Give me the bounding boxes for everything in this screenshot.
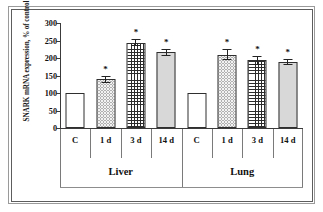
error-bar-cap-top — [101, 76, 110, 77]
significance-marker: * — [164, 38, 169, 47]
error-bar-cap-bottom — [101, 82, 110, 83]
error-bar — [253, 56, 262, 64]
bar-slot: * — [242, 23, 272, 128]
y-axis-tick-mark — [56, 41, 60, 42]
bars-layer: ****** — [60, 23, 303, 128]
y-axis-tick-mark — [56, 93, 60, 94]
category-label: 14 d — [273, 135, 303, 145]
y-axis-tick-label: 250 — [33, 36, 57, 45]
bar-slot — [182, 23, 212, 128]
y-axis-tick-mark — [56, 58, 60, 59]
y-axis-tick-labels: 300250200150100500 — [33, 9, 57, 202]
figure-frame: SNARK mRNA expression, % of control 3002… — [0, 0, 323, 212]
y-axis-tick-label: 100 — [33, 89, 57, 98]
bar-slot — [60, 23, 90, 128]
y-axis-tick-mark — [56, 111, 60, 112]
chart-plot-area: SNARK mRNA expression, % of control 3002… — [11, 9, 313, 202]
error-bar — [162, 49, 171, 56]
bar-slot: * — [273, 23, 303, 128]
bar-slot: * — [212, 23, 242, 128]
bar-slot: * — [90, 23, 120, 128]
bar-lung-1d[interactable] — [218, 55, 237, 129]
category-label: C — [60, 135, 90, 145]
y-axis-tick-label: 50 — [33, 106, 57, 115]
error-bar-cap-bottom — [223, 59, 232, 60]
bar-liver-14d[interactable] — [157, 52, 176, 128]
bar-slot: * — [151, 23, 181, 128]
group-label-lung: Lung — [182, 166, 304, 177]
y-axis-tick-label: 200 — [33, 54, 57, 63]
error-bar — [223, 49, 232, 60]
category-label: 14 d — [151, 135, 181, 145]
y-axis-tick-mark — [56, 76, 60, 77]
error-bar-cap-bottom — [131, 45, 140, 46]
y-axis-tick-label: 300 — [33, 19, 57, 28]
error-bar-cap-bottom — [283, 64, 292, 65]
y-axis-tick-label: 150 — [33, 71, 57, 80]
group-axis: LiverLung — [60, 158, 303, 188]
y-axis-tick-mark — [56, 128, 60, 129]
bar-lung-c[interactable] — [187, 93, 206, 128]
error-bar — [101, 76, 110, 82]
error-bar-cap-top — [283, 59, 292, 60]
bar-slot: * — [121, 23, 151, 128]
error-bar — [283, 59, 292, 65]
y-axis-tick-label: 0 — [33, 124, 57, 133]
bar-lung-14d[interactable] — [278, 62, 297, 128]
bar-liver-1d[interactable] — [96, 79, 115, 128]
y-axis-tick-mark — [56, 23, 60, 24]
category-label: C — [182, 135, 212, 145]
category-label: 1 d — [212, 135, 242, 145]
error-bar-cap-top — [162, 49, 171, 50]
error-bar-cap-bottom — [162, 55, 171, 56]
category-label: 1 d — [90, 135, 120, 145]
y-axis-label: SNARK mRNA expression, % of control — [23, 0, 31, 125]
significance-marker: * — [134, 28, 139, 37]
axis-bottom-rule — [60, 187, 303, 188]
bar-lung-3d[interactable] — [248, 60, 267, 128]
group-separator — [302, 158, 303, 188]
error-bar-cap-top — [223, 49, 232, 50]
category-label: 3 d — [242, 135, 272, 145]
error-bar — [131, 39, 140, 46]
significance-marker: * — [225, 38, 230, 47]
error-bar-cap-top — [131, 39, 140, 40]
category-label: 3 d — [121, 135, 151, 145]
error-bar-cap-bottom — [253, 64, 262, 65]
significance-marker: * — [103, 65, 108, 74]
significance-marker: * — [286, 48, 291, 57]
bar-liver-3d[interactable] — [126, 43, 145, 128]
group-label-liver: Liver — [60, 166, 182, 177]
significance-marker: * — [255, 45, 260, 54]
error-bar-cap-top — [253, 56, 262, 57]
bar-liver-c[interactable] — [66, 93, 85, 128]
